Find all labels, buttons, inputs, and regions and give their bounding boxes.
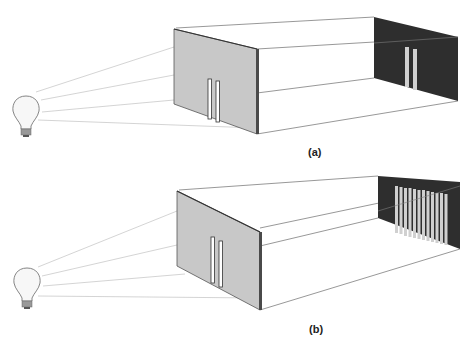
slit	[208, 79, 212, 119]
slit	[211, 237, 215, 283]
slit-wall	[177, 191, 260, 310]
light-bulb-icon	[13, 96, 39, 137]
panel-label-a: (a)	[308, 146, 321, 158]
slit	[219, 241, 223, 287]
band	[405, 47, 409, 87]
slit-wall	[174, 29, 257, 134]
band	[413, 49, 417, 90]
panel-a	[13, 17, 458, 137]
double-slit-diagram	[0, 0, 475, 352]
panel-label-b: (b)	[309, 323, 323, 335]
slit	[216, 81, 220, 122]
light-bulb-icon	[14, 268, 40, 309]
panel-b	[14, 176, 460, 310]
